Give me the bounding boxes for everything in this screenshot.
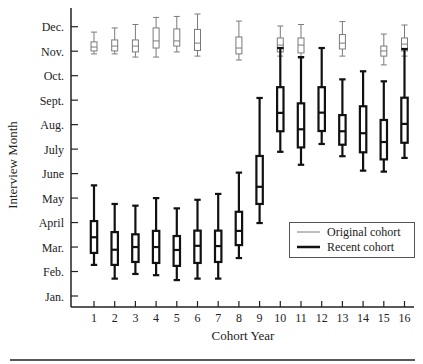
legend-label-original: Original cohort — [327, 225, 401, 239]
series-original-cohort — [91, 14, 408, 65]
x-tick-label: 12 — [316, 311, 328, 325]
box-recent-year-11 — [298, 57, 304, 165]
y-tick-label: Oct. — [44, 69, 64, 83]
iqr-box — [236, 37, 242, 54]
x-tick-label: 6 — [195, 311, 201, 325]
iqr-box — [132, 234, 138, 262]
iqr-box — [381, 120, 387, 159]
y-axis: Jan.Feb.Mar.AprilMayJuneJulyAug.Sept.Oct… — [39, 8, 78, 307]
y-tick-label: Feb. — [43, 265, 64, 279]
x-tick-label: 11 — [295, 311, 307, 325]
legend: Original cohort Recent cohort — [290, 223, 415, 258]
box-original-year-13 — [339, 22, 345, 57]
x-tick-label: 3 — [132, 311, 138, 325]
y-tick-label: May — [42, 192, 64, 206]
y-tick-label: Nov. — [41, 45, 64, 59]
x-tick-label: 1 — [91, 311, 97, 325]
box-recent-year-7 — [215, 194, 221, 279]
iqr-box — [339, 35, 345, 49]
y-tick-label: Jan. — [45, 290, 64, 304]
box-recent-year-16 — [401, 49, 407, 158]
legend-label-recent: Recent cohort — [327, 240, 395, 254]
box-recent-year-5 — [174, 208, 180, 280]
y-tick-label: July — [44, 143, 64, 157]
y-tick-label: Dec. — [42, 20, 64, 34]
iqr-box — [91, 42, 97, 51]
y-tick-label: Sept. — [40, 94, 64, 108]
x-tick-label: 15 — [378, 311, 390, 325]
box-recent-year-15 — [381, 81, 387, 171]
iqr-box — [298, 103, 304, 147]
box-recent-year-6 — [194, 200, 200, 279]
x-tick-label: 16 — [399, 311, 411, 325]
x-tick-label: 13 — [336, 311, 348, 325]
y-axis-title: Interview Month — [5, 121, 20, 209]
iqr-box — [401, 98, 407, 143]
boxplot-chart: Jan.Feb.Mar.AprilMayJuneJulyAug.Sept.Oct… — [0, 0, 423, 364]
x-tick-label: 7 — [215, 311, 221, 325]
y-tick-label: June — [42, 167, 64, 181]
box-original-year-6 — [195, 14, 201, 56]
box-original-year-4 — [153, 17, 159, 57]
x-tick-label: 8 — [236, 311, 242, 325]
box-original-year-1 — [91, 32, 97, 54]
box-original-year-8 — [236, 21, 242, 60]
box-original-year-2 — [112, 28, 118, 54]
box-recent-year-3 — [132, 206, 138, 274]
x-axis: 12345678910111213141516 — [71, 301, 414, 325]
iqr-box — [153, 28, 159, 48]
x-tick-label: 10 — [274, 311, 286, 325]
iqr-box — [195, 29, 201, 50]
x-tick-label: 2 — [112, 311, 118, 325]
x-tick-label: 4 — [153, 311, 159, 325]
box-recent-year-4 — [153, 198, 159, 275]
x-tick-label: 14 — [357, 311, 369, 325]
box-original-year-5 — [174, 16, 180, 51]
iqr-box — [112, 232, 118, 265]
x-axis-title: Cohort Year — [212, 328, 276, 343]
iqr-box — [256, 156, 262, 204]
y-tick-label: Aug. — [40, 118, 64, 132]
box-recent-year-12 — [319, 48, 325, 144]
box-original-year-15 — [381, 34, 387, 65]
box-recent-year-1 — [91, 185, 97, 265]
iqr-box — [319, 87, 325, 131]
box-recent-year-9 — [256, 98, 262, 223]
y-tick-label: Mar. — [42, 241, 64, 255]
box-original-year-3 — [132, 25, 138, 58]
box-original-year-11 — [298, 25, 304, 59]
box-recent-year-10 — [277, 48, 283, 152]
box-recent-year-8 — [236, 173, 242, 258]
x-tick-label: 5 — [174, 311, 180, 325]
box-recent-year-2 — [112, 204, 118, 279]
iqr-box — [339, 115, 345, 145]
iqr-box — [236, 212, 242, 245]
box-recent-year-13 — [339, 79, 345, 156]
x-tick-label: 9 — [257, 311, 263, 325]
iqr-box — [174, 29, 180, 46]
iqr-box — [360, 106, 366, 152]
iqr-box — [112, 40, 118, 51]
box-recent-year-14 — [360, 71, 366, 170]
iqr-box — [277, 87, 283, 131]
y-tick-label: April — [39, 216, 65, 230]
